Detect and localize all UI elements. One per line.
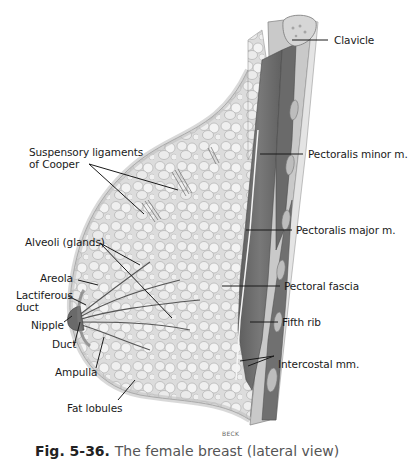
label-pectoral-fascia: Pectoral fascia (284, 280, 359, 293)
caption-text: The female breast (lateral view) (115, 443, 339, 459)
label-intercostal: Intercostal mm. (278, 358, 359, 371)
label-lactiferous-line2: duct (16, 301, 39, 314)
label-fifth-rib: Fifth rib (282, 316, 321, 329)
label-alveoli: Alveoli (glands) (25, 236, 105, 249)
label-areola: Areola (40, 272, 73, 285)
label-nipple: Nipple (31, 319, 64, 332)
artist-credit: BECK (222, 430, 239, 437)
label-suspensory-ligaments-line2: of Cooper (29, 158, 79, 171)
label-pectoralis-minor: Pectoralis minor m. (308, 148, 408, 161)
figure-caption: Fig. 5-36. The female breast (lateral vi… (35, 443, 339, 459)
label-duct: Duct (52, 338, 76, 351)
label-pectoralis-major: Pectoralis major m. (296, 224, 395, 237)
label-fat-lobules: Fat lobules (67, 402, 122, 415)
label-ampulla: Ampulla (55, 366, 97, 379)
label-clavicle: Clavicle (334, 34, 374, 47)
caption-label: Fig. 5-36. (35, 443, 110, 459)
